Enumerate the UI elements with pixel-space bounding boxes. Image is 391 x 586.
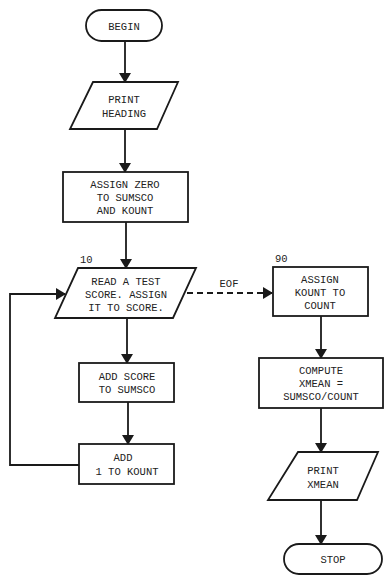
node-stop: STOP bbox=[284, 544, 382, 574]
node-print-heading: PRINT HEADING bbox=[70, 82, 178, 129]
node-text: XMEAN bbox=[307, 479, 339, 491]
node-begin: BEGIN bbox=[86, 10, 162, 41]
node-text: XMEAN = bbox=[299, 378, 343, 390]
node-text: COUNT bbox=[304, 300, 336, 312]
node-add-kount: ADD 1 TO KOUNT bbox=[79, 444, 174, 484]
node-text: AND KOUNT bbox=[97, 205, 154, 217]
node-text: ASSIGN bbox=[301, 274, 339, 286]
node-text: TO SUMSCO bbox=[97, 192, 154, 204]
node-read-score: READ A TEST SCORE. ASSIGN IT TO SCORE. bbox=[55, 268, 196, 318]
eof-label: EOF bbox=[220, 278, 239, 290]
process-shape bbox=[79, 444, 174, 484]
node-text: READ A TEST bbox=[91, 276, 160, 288]
node-text: STOP bbox=[320, 554, 345, 566]
node-add-score: ADD SCORE TO SUMSCO bbox=[79, 363, 174, 402]
node-text: SUMSCO/COUNT bbox=[283, 391, 359, 403]
node-text: COMPUTE bbox=[299, 365, 343, 377]
node-text: SCORE. ASSIGN bbox=[85, 289, 167, 301]
node-text: PRINT bbox=[108, 94, 140, 106]
node-text: KOUNT TO bbox=[295, 287, 345, 299]
statement-label-90: 90 bbox=[275, 253, 288, 265]
node-text: IT TO SCORE. bbox=[88, 302, 164, 314]
node-assign-zero: ASSIGN ZERO TO SUMSCO AND KOUNT bbox=[63, 172, 188, 222]
node-compute-xmean: COMPUTE XMEAN = SUMSCO/COUNT bbox=[259, 358, 383, 408]
node-text: ASSIGN ZERO bbox=[90, 179, 159, 191]
node-text: 1 TO KOUNT bbox=[95, 466, 158, 478]
node-text: HEADING bbox=[102, 108, 146, 120]
node-text: PRINT bbox=[307, 465, 339, 477]
node-text: ADD bbox=[114, 452, 133, 464]
statement-label-10: 10 bbox=[80, 254, 93, 266]
loop-back-arrow bbox=[10, 294, 79, 465]
node-text: TO SUMSCO bbox=[99, 384, 156, 396]
node-assign-kount: ASSIGN KOUNT TO COUNT bbox=[273, 267, 368, 316]
flowchart-canvas: BEGIN PRINT HEADING ASSIGN ZERO TO SUMSC… bbox=[0, 0, 391, 586]
node-print-xmean: PRINT XMEAN bbox=[268, 452, 378, 500]
node-text: ADD SCORE bbox=[99, 371, 156, 383]
node-text: BEGIN bbox=[108, 21, 140, 33]
